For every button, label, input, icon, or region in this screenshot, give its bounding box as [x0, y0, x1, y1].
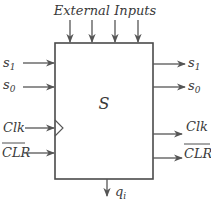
output-s1-label: s1	[188, 55, 200, 72]
output-s0-label: s0	[188, 78, 201, 95]
output-clk-label: Clk	[186, 119, 208, 134]
state-block-diagram: External Inputs S s1 s0 Clk CLR s1 s0 Cl…	[0, 0, 211, 212]
external-inputs-label: External Inputs	[53, 3, 157, 18]
output-clr-label: CLR	[184, 146, 211, 161]
right-outputs: s1 s0 Clk CLR	[153, 55, 211, 161]
input-s1-label: s1	[3, 55, 15, 72]
left-inputs: s1 s0 Clk CLR	[2, 55, 54, 160]
block-label: S	[99, 94, 110, 113]
external-input-arrows	[70, 20, 138, 42]
input-s0-label: s0	[3, 77, 16, 94]
input-clk-label: Clk	[3, 120, 25, 135]
output-qi-label: qi	[115, 184, 126, 201]
